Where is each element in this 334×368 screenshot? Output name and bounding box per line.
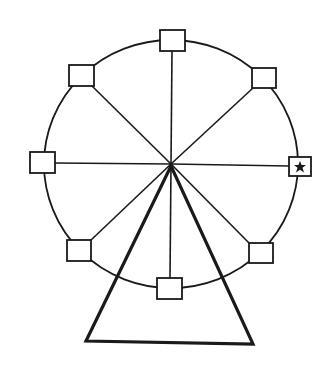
cabin-bottom-right [249, 243, 273, 263]
cabin-top-left [69, 65, 94, 86]
cabin-bottom-left [67, 240, 91, 261]
cabin-left [30, 152, 55, 173]
cabin-bottom [157, 278, 182, 299]
spoke-top-right [171, 88, 253, 164]
spoke-bottom [170, 164, 171, 278]
spoke-bottom-left [90, 164, 171, 241]
spoke-left [55, 163, 171, 164]
ferris-wheel-diagram [0, 0, 334, 368]
spoke-right [171, 164, 289, 166]
ferris-wheel-svg [0, 0, 334, 368]
cabin-top [160, 30, 185, 51]
spoke-bottom-right [171, 164, 250, 244]
spoke-top [171, 51, 172, 164]
spoke-top-left [92, 86, 171, 164]
cabin-top-right [252, 68, 276, 88]
